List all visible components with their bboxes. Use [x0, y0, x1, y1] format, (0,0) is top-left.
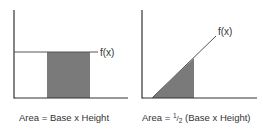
shaded-rectangle	[47, 52, 90, 98]
caption: Area = Base x Height	[19, 112, 109, 123]
area-diagrams: f(x) Area = Base x Height f(x) Area = 1/…	[0, 0, 263, 130]
caption-suffix: (Base x Height)	[182, 112, 250, 123]
function-label: f(x)	[100, 47, 114, 58]
caption-prefix: Area =	[142, 112, 173, 123]
left-diagram: f(x) Area = Base x Height	[14, 10, 128, 123]
function-label: f(x)	[218, 26, 232, 37]
caption: Area = 1/2 (Base x Height)	[142, 112, 251, 124]
right-diagram: f(x) Area = 1/2 (Base x Height)	[142, 10, 257, 124]
